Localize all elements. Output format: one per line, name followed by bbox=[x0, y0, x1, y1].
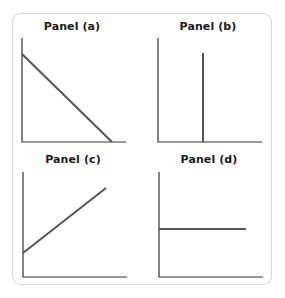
panel-c-axes bbox=[23, 172, 127, 277]
panels-svg bbox=[0, 0, 285, 298]
panel-c-line bbox=[23, 188, 106, 253]
panel-a-line bbox=[22, 54, 112, 142]
panel-a-axes bbox=[22, 38, 126, 142]
panel-b-axes bbox=[158, 38, 262, 142]
panel-d-axes bbox=[159, 172, 263, 277]
